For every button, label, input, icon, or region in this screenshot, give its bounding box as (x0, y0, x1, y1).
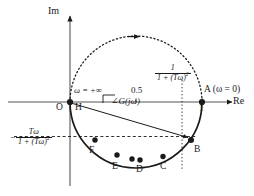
point-label-H: H (75, 103, 82, 113)
origin-label: O (56, 103, 63, 113)
angle-annotation: ∠G(jω) (111, 97, 140, 106)
imag-fraction-denominator-exponent: 2 (47, 135, 50, 141)
imag-fraction-denominator-base: 1 + (Tω) (18, 137, 47, 146)
real-fraction-denominator-base: 1 + (Tω) (157, 73, 186, 82)
imag-fraction-sign: − (10, 133, 15, 142)
point-marker-D (137, 157, 142, 162)
point-marker-E (114, 152, 119, 157)
imag-fraction-denominator: 1 + (Tω)2 (16, 138, 52, 147)
nyquist-figure: Im Re O H B C D E F ω = +∞ 0.5 1 A (ω = … (0, 0, 254, 196)
imaginary-axis-label: Im (48, 6, 59, 16)
point-label-B: B (194, 145, 200, 155)
point-caption-A: A (ω = 0) (204, 85, 240, 95)
point-marker-C (160, 154, 165, 159)
phasor-vector (71, 103, 188, 138)
real-part-fraction: 1 1 + (Tω)2 (155, 64, 191, 82)
omega-infinity-annotation: ω = +∞ (74, 86, 102, 95)
tick-label-one: 1 (199, 104, 204, 113)
point-label-D: D (136, 165, 143, 175)
real-fraction-denominator: 1 + (Tω)2 (155, 74, 191, 83)
point-label-C: C (160, 162, 166, 172)
point-label-E: E (112, 162, 118, 172)
imag-part-fraction: − Tω 1 + (Tω)2 (10, 128, 52, 146)
point-marker-D2 (129, 156, 134, 161)
real-axis-label: Re (233, 96, 244, 106)
point-marker-B (188, 137, 194, 143)
point-label-F: F (89, 146, 94, 156)
point-marker-F (92, 137, 97, 142)
tick-label-half: 0.5 (131, 86, 142, 95)
real-fraction-denominator-exponent: 2 (186, 71, 189, 77)
point-marker-H (67, 99, 73, 105)
